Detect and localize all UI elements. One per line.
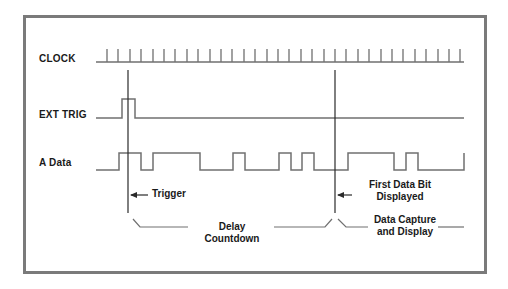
ext-trig-label: EXT TRIG (39, 109, 87, 120)
ext-trig-waveform (96, 99, 464, 118)
timing-diagram (0, 0, 508, 289)
data-capture-line2: and Display (366, 226, 444, 238)
a-data-label: A Data (39, 157, 72, 168)
first-data-bit-line1: First Data Bit (355, 179, 445, 191)
first-data-bit-annotation: First Data Bit Displayed (355, 179, 445, 203)
trigger-annotation: Trigger (152, 188, 186, 200)
clock-waveform (96, 49, 464, 62)
first-data-bit-line2: Displayed (355, 191, 445, 203)
delay-countdown-annotation: Delay Countdown (190, 221, 274, 245)
clock-label: CLOCK (39, 53, 76, 64)
data-capture-annotation: Data Capture and Display (366, 214, 444, 238)
data-capture-line1: Data Capture (366, 214, 444, 226)
a-data-waveform (96, 153, 464, 170)
